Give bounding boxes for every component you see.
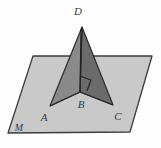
label-d: D	[73, 5, 82, 17]
label-b: B	[78, 98, 85, 110]
label-a: A	[40, 111, 48, 123]
geometry-figure-container: D A B C M	[0, 0, 161, 148]
geometry-figure-svg: D A B C M	[0, 0, 161, 148]
label-c: C	[114, 110, 122, 122]
label-m: M	[14, 122, 24, 133]
